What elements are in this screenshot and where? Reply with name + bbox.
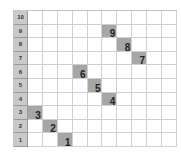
grid-cell (58, 11, 73, 25)
grid-cell (73, 106, 88, 120)
grid-cell (73, 52, 88, 66)
grid-cell (43, 65, 58, 79)
highlighted-cell: 2 (43, 120, 58, 134)
grid-cell (117, 52, 132, 66)
grid-cell (88, 11, 103, 25)
grid-cell (132, 79, 147, 93)
row-label: 5 (14, 79, 28, 93)
grid-cell (162, 25, 177, 39)
grid-cell (28, 93, 43, 107)
grid-cell (162, 52, 177, 66)
grid-cell (147, 133, 162, 147)
grid-cell (43, 106, 58, 120)
grid-cell (88, 52, 103, 66)
grid-cell (162, 120, 177, 134)
grid-cell (102, 79, 117, 93)
grid-cell (43, 38, 58, 52)
grid-cell (58, 120, 73, 134)
grid-cell (117, 106, 132, 120)
grid-cell (88, 93, 103, 107)
grid-cell (58, 52, 73, 66)
grid-cell (73, 79, 88, 93)
grid-cell (28, 65, 43, 79)
grid-cell (147, 106, 162, 120)
row-label: 1 (14, 133, 28, 147)
highlighted-cell: 5 (88, 79, 103, 93)
grid-cell (147, 79, 162, 93)
grid-cell (132, 120, 147, 134)
grid-cell (28, 133, 43, 147)
grid-cell (132, 25, 147, 39)
grid-cell (162, 11, 177, 25)
row-label: 6 (14, 65, 28, 79)
grid-cell (43, 11, 58, 25)
grid-cell (147, 120, 162, 134)
grid-cell (43, 25, 58, 39)
grid-cell (102, 52, 117, 66)
grid-cell (147, 11, 162, 25)
grid-cell (117, 93, 132, 107)
highlighted-cell: 8 (117, 38, 132, 52)
highlighted-cell: 3 (28, 106, 43, 120)
grid-cell (28, 38, 43, 52)
row-label: 4 (14, 93, 28, 107)
grid-cell (73, 11, 88, 25)
grid-cell (73, 38, 88, 52)
grid-cell (162, 65, 177, 79)
row-label: 8 (14, 38, 28, 52)
grid-cell (162, 93, 177, 107)
grid-cell (28, 120, 43, 134)
highlighted-cell: 9 (102, 25, 117, 39)
grid-cell (117, 79, 132, 93)
grid-cell (102, 133, 117, 147)
highlighted-cell: 6 (73, 65, 88, 79)
grid-cell (117, 65, 132, 79)
grid-cell (132, 65, 147, 79)
grid-cell (132, 11, 147, 25)
grid-cell (147, 38, 162, 52)
grid-cell (43, 52, 58, 66)
grid-cell (117, 25, 132, 39)
row-label: 2 (14, 120, 28, 134)
grid-cell (73, 93, 88, 107)
grid-cell (28, 79, 43, 93)
highlighted-cell: 1 (58, 133, 73, 147)
highlighted-cell: 7 (132, 52, 147, 66)
grid-cell (88, 120, 103, 134)
grid-cell (147, 52, 162, 66)
grid-cell (147, 25, 162, 39)
grid-cell (117, 120, 132, 134)
grid-cell (132, 38, 147, 52)
highlighted-cell: 4 (102, 93, 117, 107)
row-label: 7 (14, 52, 28, 66)
grid-cell (58, 38, 73, 52)
number-grid: 10998877665544332211 (13, 10, 177, 147)
grid-cell (102, 11, 117, 25)
grid-cell (102, 38, 117, 52)
row-label: 9 (14, 25, 28, 39)
grid-cell (73, 120, 88, 134)
grid-cell (28, 11, 43, 25)
grid-cell (58, 25, 73, 39)
grid-cell (58, 65, 73, 79)
grid-cell (88, 25, 103, 39)
grid-cell (88, 38, 103, 52)
grid-cell (58, 93, 73, 107)
grid-cell (102, 65, 117, 79)
grid-cell (132, 106, 147, 120)
row-label: 10 (14, 11, 28, 25)
grid-cell (73, 133, 88, 147)
grid-cell (28, 52, 43, 66)
grid-cell (147, 65, 162, 79)
grid-cell (43, 133, 58, 147)
grid-cell (58, 79, 73, 93)
grid-cell (132, 133, 147, 147)
grid-cell (88, 65, 103, 79)
row-label: 3 (14, 106, 28, 120)
grid-cell (73, 25, 88, 39)
grid-cell (162, 79, 177, 93)
grid-cell (28, 25, 43, 39)
grid-cell (117, 11, 132, 25)
grid-cell (147, 93, 162, 107)
grid-cell (43, 79, 58, 93)
